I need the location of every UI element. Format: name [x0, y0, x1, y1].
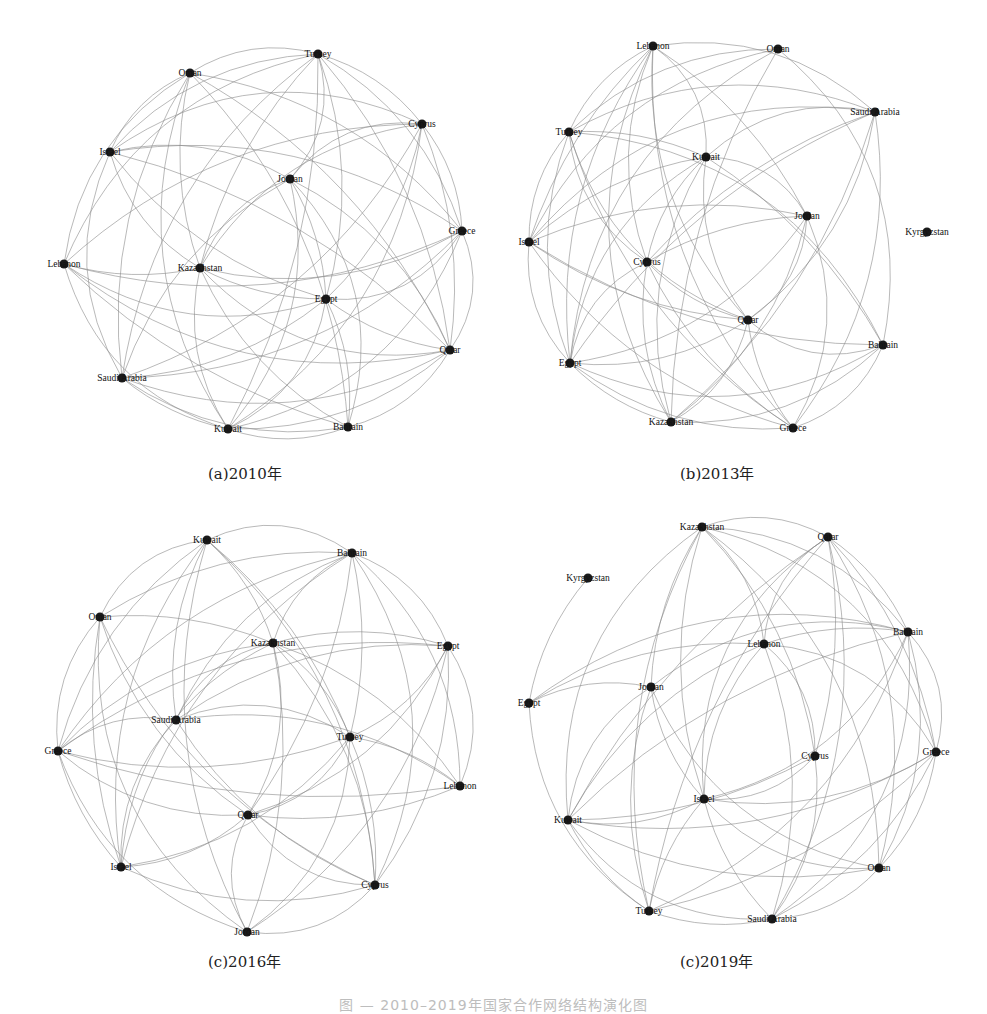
node-lebanon: Lebanon	[636, 41, 669, 51]
edge-egypt-qatar	[326, 299, 450, 350]
edge-cyprus-lebanon	[64, 124, 422, 264]
edge-qatar-saudi-arabia	[122, 350, 450, 403]
edge-turkey-cyprus	[318, 54, 422, 124]
node-jordan: Jordan	[234, 927, 260, 937]
node-label: Israel	[693, 794, 714, 804]
edge-egypt-cyprus	[375, 646, 449, 885]
edge-kuwait-cyprus	[207, 540, 375, 885]
node-label: Kyrgyzstan	[566, 573, 610, 583]
edge-greece-qatar	[450, 231, 473, 350]
node-label: Bahrain	[893, 627, 923, 637]
edge-turkey-kazakhstan	[200, 54, 318, 268]
node-label: Greece	[449, 226, 476, 236]
edge-bahrain-oman	[100, 552, 352, 617]
node-label: Israel	[518, 237, 539, 247]
node-label: Qatar	[817, 532, 839, 542]
node-qatar: Qatar	[237, 810, 259, 820]
node-egypt: Egypt	[559, 358, 582, 368]
edge-turkey-lebanon	[350, 737, 460, 786]
node-label: Saudi Arabia	[747, 914, 797, 924]
edge-lebanon-kuwait	[568, 644, 764, 820]
node-bahrain: Bahrain	[333, 422, 363, 432]
node-label: Turkey	[304, 49, 331, 59]
edge-lebanon-qatar	[652, 46, 748, 320]
edge-israel-bahrain	[529, 242, 883, 345]
edge-lebanon-israel	[704, 644, 764, 799]
node-kyrgyzstan: Kyrgyzstan	[566, 573, 610, 583]
edge-oman-israel	[529, 49, 778, 242]
node-qatar: Qatar	[737, 315, 759, 325]
edge-kazakhstan-greece	[702, 527, 936, 752]
edge-kazakhstan-lebanon	[702, 527, 764, 644]
node-greece: Greece	[45, 746, 72, 756]
node-kuwait: Kuwait	[692, 152, 720, 162]
edge-israel-cyprus	[121, 867, 375, 901]
node-cyprus: Cyprus	[801, 751, 829, 761]
figure-caption: 图 — 2010–2019年国家合作网络结构演化图	[0, 994, 987, 1014]
edge-jordan-cyprus	[647, 216, 807, 262]
node-oman: Oman	[766, 44, 789, 54]
edge-greece-saudi-arabia	[772, 752, 936, 919]
edge-saudi-arabia-cyprus	[176, 720, 375, 885]
node-lebanon: Lebanon	[443, 781, 476, 791]
edge-bahrain-egypt	[529, 614, 908, 703]
node-jordan: Jordan	[794, 211, 820, 221]
edge-kazakhstan-kuwait	[194, 268, 228, 429]
edge-egypt-kazakhstan	[570, 363, 671, 422]
node-saudi-arabia: Saudi Arabia	[747, 914, 797, 924]
node-qatar: Qatar	[817, 532, 839, 542]
node-israel: Israel	[693, 794, 714, 804]
node-bahrain: Bahrain	[893, 627, 923, 637]
edge-turkey-israel	[110, 54, 318, 152]
edge-bahrain-kazakhstan	[273, 553, 352, 643]
edge-israel-kuwait	[568, 799, 704, 824]
panel-edges-b	[528, 42, 890, 429]
node-turkey: Turkey	[336, 732, 363, 742]
edge-greece-israel	[58, 751, 121, 867]
edge-qatar-greece	[828, 537, 936, 752]
edge-israel-saudi-arabia	[704, 799, 772, 919]
node-greece: Greece	[923, 747, 950, 757]
edge-lebanon-kuwait	[64, 264, 228, 429]
edge-oman-kazakhstan	[671, 49, 778, 422]
node-label: Turkey	[555, 127, 582, 137]
panel-caption-d: (c)2019年	[680, 950, 753, 971]
node-label: Cyprus	[408, 119, 436, 129]
node-label: Egypt	[559, 358, 582, 368]
node-label: Jordan	[277, 174, 303, 184]
node-label: Greece	[45, 746, 72, 756]
edge-jordan-oman	[651, 687, 879, 868]
edge-saudi-arabia-turkey	[569, 85, 875, 132]
edge-kazakhstan-jordan	[247, 643, 283, 932]
edges-layer	[57, 42, 942, 933]
edge-turkey-jordan	[247, 737, 350, 932]
edge-jordan-israel	[529, 205, 807, 242]
node-lebanon: Lebanon	[47, 259, 80, 269]
edge-qatar-jordan	[231, 815, 248, 932]
edge-jordan-turkey	[631, 687, 651, 911]
node-greece: Greece	[449, 226, 476, 236]
node-jordan: Jordan	[638, 682, 664, 692]
edge-kazakhstan-bahrain	[702, 527, 908, 632]
node-bahrain: Bahrain	[337, 548, 367, 558]
edge-turkey-saudi-arabia	[122, 54, 318, 378]
node-label: Egypt	[437, 641, 460, 651]
node-label: Qatar	[439, 345, 461, 355]
node-label: Kuwait	[692, 152, 720, 162]
node-israel: Israel	[518, 237, 539, 247]
node-saudi-arabia: Saudi Arabia	[850, 107, 900, 117]
edge-kuwait-jordan	[706, 157, 807, 216]
node-label: Cyprus	[801, 751, 829, 761]
edge-saudi-arabia-lebanon	[176, 715, 460, 786]
edge-kazakhstan-israel	[121, 643, 273, 867]
edge-kazakhstan-jordan	[651, 527, 702, 687]
edge-cyprus-kuwait	[568, 756, 815, 820]
edge-kuwait-bahrain	[207, 525, 352, 553]
node-oman: Oman	[867, 863, 890, 873]
node-label: Kazakhstan	[680, 522, 725, 532]
edge-bahrain-lebanon	[764, 628, 908, 644]
edge-oman-bahrain	[778, 49, 890, 345]
edge-turkey-greece	[569, 132, 793, 428]
edge-kuwait-jordan	[184, 540, 247, 932]
edge-egypt-turkey	[350, 646, 448, 737]
